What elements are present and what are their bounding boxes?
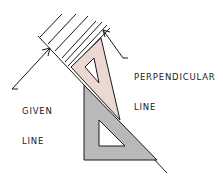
perpendicular-label-line1: PERPENDICULAR xyxy=(134,72,216,82)
given-label-line2: LINE xyxy=(22,136,53,146)
given-label-line1: GIVEN xyxy=(22,106,53,116)
given-line-label: GIVEN LINE xyxy=(22,86,53,156)
perpendicular-label-line2: LINE xyxy=(134,102,216,112)
given-arrow xyxy=(12,48,50,89)
perpendicular-arrow xyxy=(103,30,128,58)
perpendicular-line-label: PERPENDICULAR LINE xyxy=(134,52,216,122)
